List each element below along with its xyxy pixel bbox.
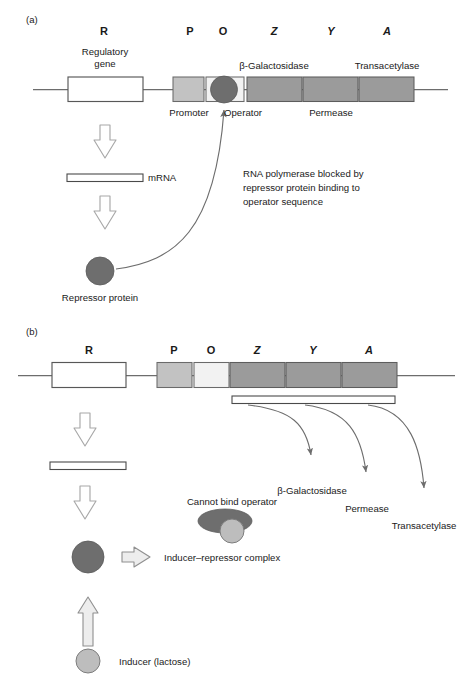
inducer-lactose-label: Inducer (lactose)	[119, 656, 190, 667]
gene-letter-P-b: P	[170, 344, 177, 357]
rna-polymerase-note-line2: repressor protein binding to	[243, 181, 360, 195]
gene-box-O-b	[194, 363, 229, 388]
regulatory-gene-label-line2: gene	[94, 58, 115, 69]
mrna-bar-a	[67, 174, 143, 182]
block-arrow-transcription-a	[94, 125, 116, 158]
gene-box-O-a	[206, 77, 244, 102]
gene-box-P-b	[157, 363, 192, 388]
repressor-protein-circle-a	[86, 257, 114, 285]
panel-a-tag: (a)	[26, 14, 38, 25]
rna-polymerase-note-line3: operator sequence	[243, 195, 323, 209]
panel-b-tag: (b)	[26, 326, 38, 337]
repressor-protein-label-a: Repressor protein	[62, 292, 138, 303]
gene-letter-R-a: R	[100, 25, 108, 38]
diagram-vector-layer	[0, 0, 475, 686]
bound-inducer-circle	[220, 519, 244, 543]
repressor-protein-circle-b	[72, 541, 104, 573]
gene-box-Y-a	[303, 77, 358, 102]
translation-curve-beta-galactosidase	[248, 405, 311, 455]
gene-box-P-a	[173, 77, 204, 102]
gene-letter-Z-b: Z	[254, 344, 261, 357]
gene-letter-Z-a: Z	[271, 25, 278, 38]
inducer-lactose-circle	[76, 649, 100, 673]
operator-label-a: Operator	[224, 107, 262, 118]
gene-letter-Y-a: Y	[327, 25, 334, 38]
cannot-bind-operator-label: Cannot bind operator	[187, 496, 277, 507]
bound-repressor-circle-a	[211, 76, 238, 103]
transacetylase-label-b: Transacetylase	[392, 520, 457, 531]
block-arrow-transcription-b	[74, 413, 96, 446]
gene-letter-O-b: O	[207, 344, 216, 357]
block-arrow-inducer-up	[78, 597, 98, 646]
gene-box-R-b	[52, 363, 126, 388]
beta-galactosidase-label-a: β-Galactosidase	[239, 60, 309, 71]
gene-letter-A-a: A	[383, 25, 391, 38]
altered-repressor-shape	[198, 509, 252, 533]
gene-box-A-a	[359, 77, 414, 102]
gene-box-A-b	[342, 363, 397, 388]
permease-label-b: Permease	[345, 503, 389, 514]
gene-letter-A-b: A	[365, 344, 373, 357]
gene-letter-R-b: R	[85, 344, 93, 357]
mrna-label-a: mRNA	[148, 172, 176, 183]
gene-box-Z-b	[230, 363, 285, 388]
mrna-bar-polycistronic-b	[232, 396, 395, 404]
repressor-binding-curve-a	[116, 110, 224, 269]
translation-curve-transacetylase	[368, 405, 424, 488]
gene-box-Y-b	[286, 363, 341, 388]
translation-curve-permease	[305, 405, 366, 472]
gene-box-Z-a	[247, 77, 302, 102]
inducer-repressor-complex-label: Inducer–repressor complex	[164, 552, 280, 563]
block-arrow-translation-b	[74, 486, 96, 519]
transacetylase-label-a: Transacetylase	[355, 60, 420, 71]
mrna-bar-regulatory-b	[50, 462, 126, 470]
block-arrow-complex-formation	[122, 547, 150, 567]
promoter-label-a: Promoter	[169, 107, 208, 118]
regulatory-gene-label-line1: Regulatory	[82, 46, 128, 57]
gene-box-R-a	[68, 77, 143, 102]
block-arrow-translation-a	[94, 196, 116, 229]
permease-label-a: Permease	[309, 107, 353, 118]
rna-polymerase-note-line1: RNA polymerase blocked by	[243, 167, 364, 181]
gene-letter-P-a: P	[186, 25, 193, 38]
gene-letter-O-a: O	[219, 25, 228, 38]
gene-letter-Y-b: Y	[309, 344, 316, 357]
figure-canvas: (a) R P O Z Y A Regulatory gene β-Galact…	[0, 0, 475, 686]
beta-galactosidase-label-b: β-Galactosidase	[277, 485, 347, 496]
